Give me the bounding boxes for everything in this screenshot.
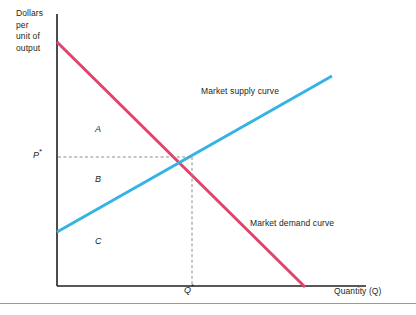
- supply-demand-figure: Dollars per unit of output Quantity (Q) …: [0, 0, 416, 315]
- y-axis-title-line-2: per: [16, 20, 60, 32]
- equilibrium-price-label: P*: [33, 150, 42, 160]
- market-demand-curve-label: Market demand curve: [250, 218, 334, 228]
- region-label-b: B: [95, 174, 101, 184]
- y-axis-title-line-1: Dollars: [16, 8, 60, 20]
- y-axis-title: Dollars per unit of output: [16, 8, 60, 54]
- region-label-a: A: [95, 124, 101, 134]
- x-axis-title: Quantity (Q): [334, 286, 382, 298]
- y-axis-title-line-3: unit of: [16, 31, 60, 43]
- region-label-c: C: [95, 236, 102, 246]
- market-supply-curve: [57, 76, 332, 232]
- market-demand-curve: [57, 42, 305, 287]
- chart-canvas: [0, 0, 416, 315]
- market-supply-curve-label: Market supply curve: [201, 86, 279, 96]
- equilibrium-quantity-label: Q*: [184, 285, 194, 295]
- bottom-divider: [0, 303, 416, 304]
- equilibrium-quantity-letter: Q: [184, 285, 191, 295]
- y-axis-title-line-4: output: [16, 43, 60, 55]
- equilibrium-quantity-star: *: [191, 282, 194, 291]
- equilibrium-price-star: *: [39, 147, 42, 156]
